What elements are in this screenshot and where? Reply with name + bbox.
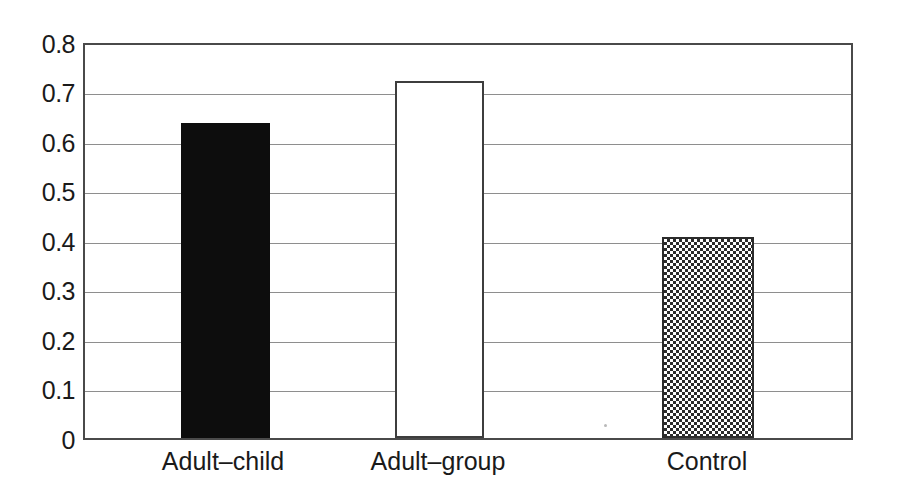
- y-tick-label: 0.2: [5, 329, 75, 354]
- y-tick-label: 0.7: [5, 81, 75, 106]
- y-axis: 0.8 0.7 0.6 0.5 0.4 0.3 0.2 0.1 0: [0, 43, 75, 440]
- x-tick-label-adult-child: Adult–child: [162, 446, 284, 476]
- plot-inner: [85, 45, 851, 438]
- bar-control: [662, 237, 754, 438]
- y-tick-label: 0: [5, 428, 75, 453]
- x-axis: Adult–child Adult–group Control: [83, 446, 853, 486]
- y-tick-label: 0.4: [5, 230, 75, 255]
- bar-adult-child: [181, 123, 270, 438]
- bar-adult-group: [395, 81, 484, 438]
- y-tick-label: 0.6: [5, 131, 75, 156]
- scan-artifact: [604, 424, 607, 427]
- y-tick-label: 0.8: [5, 32, 75, 57]
- y-tick-label: 0.5: [5, 180, 75, 205]
- y-tick-label: 0.3: [5, 279, 75, 304]
- y-tick-label: 0.1: [5, 378, 75, 403]
- x-tick-label-adult-group: Adult–group: [371, 446, 506, 476]
- plot-area: [83, 43, 853, 440]
- chart-page: 0.8 0.7 0.6 0.5 0.4 0.3 0.2 0.1 0 Adult–…: [0, 0, 902, 490]
- x-tick-label-control: Control: [667, 446, 748, 476]
